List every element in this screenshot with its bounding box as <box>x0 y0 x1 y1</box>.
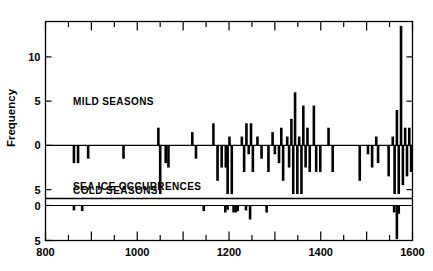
y-tick-label: 5 <box>34 184 40 196</box>
bar <box>387 145 390 176</box>
bar <box>288 145 291 167</box>
bar <box>230 145 233 194</box>
bar <box>300 145 303 194</box>
bar <box>202 206 205 212</box>
bar <box>164 145 167 163</box>
bar <box>404 128 407 146</box>
y-tick-label: 0 <box>34 139 40 151</box>
bar <box>393 145 396 194</box>
bar <box>308 145 311 172</box>
bar <box>73 206 76 211</box>
bar <box>280 128 283 146</box>
bar <box>358 145 361 180</box>
bar <box>408 128 411 146</box>
bar <box>216 145 219 180</box>
bar <box>397 206 400 214</box>
bar <box>327 128 330 146</box>
x-tick-label: 1600 <box>400 246 424 258</box>
bar <box>294 92 297 145</box>
bar <box>167 145 170 167</box>
bar <box>265 206 268 213</box>
bar <box>260 145 263 158</box>
bar <box>224 206 227 213</box>
bar <box>367 145 370 154</box>
bar <box>296 145 299 194</box>
bar <box>402 145 405 185</box>
bar <box>232 206 235 213</box>
bar <box>271 132 274 145</box>
bar <box>306 128 309 146</box>
bar <box>290 119 293 146</box>
bar <box>400 26 403 145</box>
bar <box>304 145 307 167</box>
bar <box>226 145 229 194</box>
bar <box>73 145 76 163</box>
bar <box>377 145 380 163</box>
y-tick-label: 10 <box>28 51 40 63</box>
x-tick-label: 1000 <box>125 246 149 258</box>
bar <box>274 145 277 154</box>
bar <box>81 206 84 212</box>
bar <box>157 128 160 146</box>
bar <box>331 145 334 172</box>
panel-annotation: MILD SEASONS <box>73 96 154 107</box>
bar <box>241 137 244 146</box>
bar <box>77 145 80 163</box>
y-tick-label: 0 <box>34 200 40 212</box>
bar <box>245 123 248 145</box>
bar <box>267 145 270 172</box>
bar <box>228 137 231 146</box>
bar <box>282 145 285 180</box>
bar <box>278 145 281 163</box>
bar <box>87 145 90 158</box>
chart-figure: 80010001200140016001050505MILD SEASONSCO… <box>0 0 433 271</box>
y-tick-label: 5 <box>34 235 40 247</box>
bar <box>313 106 316 146</box>
bar <box>375 137 378 146</box>
bar <box>247 145 250 154</box>
bar <box>226 206 229 210</box>
plot-frame <box>46 22 413 241</box>
bar <box>302 106 305 146</box>
x-tick-label: 1400 <box>309 246 333 258</box>
bar <box>410 145 413 172</box>
bar <box>286 137 289 146</box>
bar <box>236 206 239 212</box>
bar <box>396 110 399 145</box>
bar <box>292 145 295 194</box>
bar <box>397 145 400 194</box>
bar <box>252 145 255 172</box>
bar <box>191 132 194 145</box>
chart-canvas: 80010001200140016001050505MILD SEASONSCO… <box>0 0 433 271</box>
bar <box>220 145 223 167</box>
bar <box>249 206 252 220</box>
bar <box>243 145 246 172</box>
bar <box>393 206 396 213</box>
x-tick-label: 800 <box>36 246 54 258</box>
bar <box>315 145 318 172</box>
bar <box>245 206 248 211</box>
y-tick-label: 5 <box>34 95 40 107</box>
y-axis-title: Frequency <box>5 88 17 147</box>
bar <box>371 145 374 167</box>
bar <box>212 123 215 145</box>
bar <box>256 137 259 146</box>
bar <box>298 137 301 146</box>
bar <box>406 145 409 176</box>
bar <box>195 145 198 158</box>
bar <box>391 137 394 146</box>
bar <box>122 145 125 158</box>
x-tick-label: 1200 <box>217 246 241 258</box>
bar <box>250 123 253 145</box>
bar <box>319 145 322 172</box>
panel-annotation: SEA ICE OCCURRENCES <box>73 181 201 192</box>
